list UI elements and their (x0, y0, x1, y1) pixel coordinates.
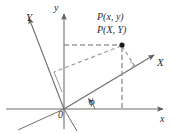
axis-label-y: y (54, 3, 58, 13)
point-label-cartesian: P(x, y) (97, 12, 124, 22)
origin-label: 0 (58, 110, 63, 120)
perpendicular-mark-Y (54, 72, 62, 92)
rotated-Y-axis-line (29, 18, 64, 109)
rotated-X-axis-line (64, 55, 154, 109)
point-P-marker (119, 42, 124, 47)
axis-label-Y-rotated: Y (26, 12, 32, 23)
point-label-rotated: P(X, Y) (97, 25, 126, 35)
rotated-Y-axis-line-negative (64, 109, 77, 131)
axis-label-x: x (160, 114, 164, 124)
coordinate-rotation-figure: Y y X x P(x, y) P(X, Y) ϕ 0 (0, 0, 174, 134)
axis-label-X-rotated: X (157, 57, 164, 68)
angle-label-phi: ϕ (89, 96, 95, 107)
